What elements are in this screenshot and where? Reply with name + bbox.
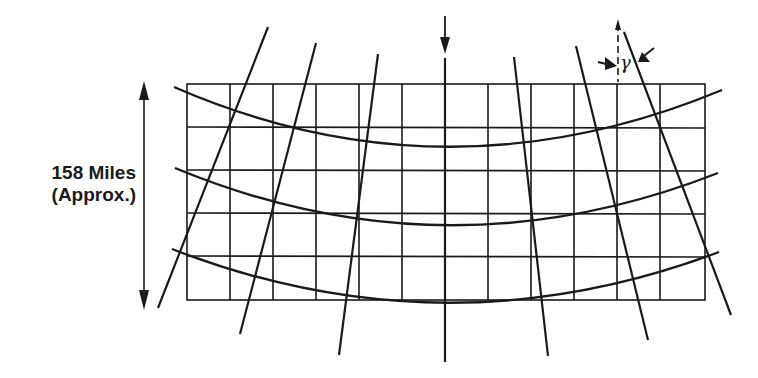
dimension-label: 158 Miles (Approx.) — [40, 162, 136, 206]
curved-scan-lines — [172, 87, 722, 303]
converging-lines — [158, 27, 731, 362]
dimension-label-miles: 158 Miles — [40, 162, 136, 184]
gamma-angle-label: γ — [620, 52, 631, 73]
center-arrow — [440, 16, 450, 54]
dimension-arrow — [139, 81, 149, 310]
dimension-label-approx: (Approx.) — [40, 184, 136, 206]
